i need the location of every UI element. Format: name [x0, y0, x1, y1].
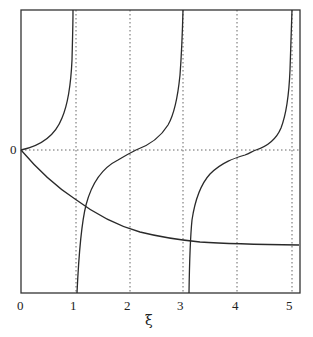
x-tick-label-2: 2: [124, 298, 131, 313]
y-tick-label-0: 0: [10, 142, 17, 157]
x-tick-label-3: 3: [177, 298, 184, 313]
x-tick-label-1: 1: [70, 298, 77, 313]
x-tick-label-0: 0: [17, 298, 24, 313]
grid: [21, 10, 300, 293]
plot: 0 0 1 2 3 4 5 ξ: [0, 0, 313, 337]
x-axis-title: ξ: [145, 312, 153, 328]
curve-tan-branch-3: [189, 10, 292, 293]
x-tick-labels: 0 1 2 3 4 5: [17, 298, 293, 313]
curve-tan-branch-1: [21, 10, 73, 150]
plot-frame: [21, 10, 300, 293]
x-tick-label-5: 5: [286, 298, 293, 313]
x-tick-label-4: 4: [232, 298, 239, 313]
curve-decaying: [21, 150, 299, 245]
